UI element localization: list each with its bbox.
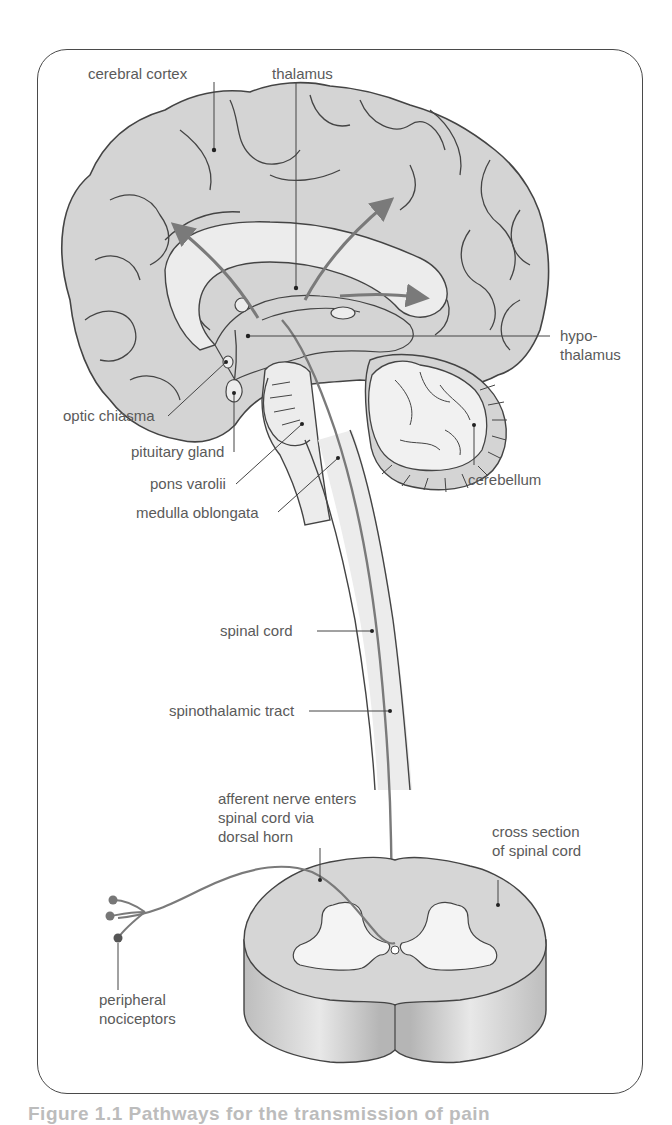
label-hypothalamus-2: thalamus — [560, 345, 621, 364]
label-afferent-3: dorsal horn — [218, 827, 293, 846]
label-cerebral-cortex: cerebral cortex — [88, 64, 187, 83]
label-afferent-1: afferent nerve enters — [218, 789, 356, 808]
label-optic-chiasma: optic chiasma — [63, 406, 155, 425]
label-cerebellum: cerebellum — [468, 470, 541, 489]
label-hypothalamus-1: hypo- — [560, 326, 598, 345]
nociceptor-ending-2 — [106, 912, 115, 921]
label-medulla-oblongata: medulla oblongata — [136, 503, 259, 522]
spinal-cord — [305, 430, 412, 790]
nociceptor-ending-3 — [114, 934, 123, 943]
label-peripheral-2: nociceptors — [99, 1009, 176, 1028]
label-peripheral-1: peripheral — [99, 990, 166, 1009]
nociceptor-ending-1 — [109, 896, 118, 905]
figure-caption: Figure 1.1 Pathways for the transmission… — [28, 1103, 490, 1125]
label-cross-section-2: of spinal cord — [492, 841, 581, 860]
label-spinothalamic-tract: spinothalamic tract — [169, 701, 294, 720]
label-afferent-2: spinal cord via — [218, 808, 314, 827]
label-thalamus: thalamus — [272, 64, 333, 83]
label-spinal-cord: spinal cord — [220, 621, 293, 640]
label-cross-section-1: cross section — [492, 822, 580, 841]
spinal-cord-cross-section — [244, 857, 546, 1062]
label-pons-varolii: pons varolii — [150, 474, 226, 493]
label-pituitary-gland: pituitary gland — [131, 442, 224, 461]
